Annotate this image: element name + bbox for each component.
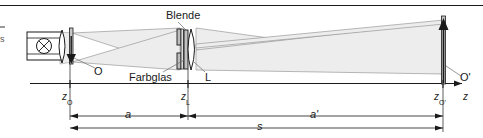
label-dim-a: a bbox=[125, 109, 131, 120]
label-object: O bbox=[94, 66, 103, 77]
label-dim-a-prime: a' bbox=[310, 109, 318, 120]
label-farbglas: Farbglas bbox=[129, 72, 172, 83]
label-image: O' bbox=[460, 72, 471, 83]
color-filter-farbglas bbox=[184, 30, 188, 69]
beam-main-to-image bbox=[196, 22, 444, 74]
label-z-lens-sub: L bbox=[186, 99, 190, 106]
optical-ray-diagram: Blende Farbglas L O O' z zO zL zO' a a' … bbox=[0, 0, 483, 138]
label-blende: Blende bbox=[166, 10, 200, 21]
leader-image bbox=[446, 66, 461, 76]
left-edge-fragment: s bbox=[0, 35, 5, 44]
lamp-bulb-icon bbox=[37, 39, 52, 54]
label-z-image-sub: O' bbox=[439, 99, 446, 106]
label-z-axis: z bbox=[463, 92, 468, 102]
label-z-lens: zL bbox=[181, 92, 190, 104]
imaging-lens bbox=[188, 29, 195, 70]
label-z-image: zO' bbox=[434, 92, 446, 104]
diagram-canvas bbox=[0, 0, 483, 138]
label-dim-s: s bbox=[257, 121, 263, 132]
label-z-object-sub: O bbox=[67, 99, 72, 106]
label-lens: L bbox=[205, 72, 211, 83]
light-beams bbox=[60, 20, 444, 74]
label-z-object: zO bbox=[62, 92, 72, 104]
